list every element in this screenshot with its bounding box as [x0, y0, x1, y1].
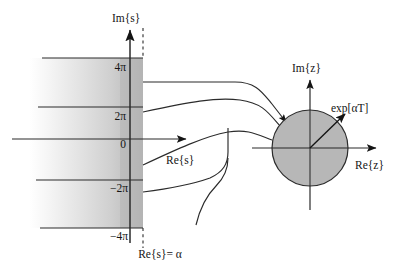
z-plane-real-axis-label: Re{z} [355, 159, 384, 171]
s-plane-imaginary-axis-label: Im{s} [112, 12, 140, 24]
s-plane-to-z-plane-diagram: Im{s} Re{s} Re{s}= α 4π 2π 0 −2π −4π [0, 0, 402, 269]
s-plane-tick-neg4pi: −4π [110, 230, 128, 242]
figure-root: Im{s} Re{s} Re{s}= α 4π 2π 0 −2π −4π [0, 0, 402, 269]
s-plane-tick-4pi: 4π [114, 61, 126, 73]
s-plane-tick-2pi: 2π [114, 110, 126, 122]
s-plane-boundary-label: Re{s}= α [138, 248, 182, 260]
s-plane-real-axis-label: Re{s} [166, 154, 194, 166]
z-plane-radius-label: exp[αT] [331, 102, 368, 115]
s-plane-tick-neg2pi: −2π [110, 182, 128, 194]
z-plane-imaginary-axis-label: Im{z} [292, 62, 321, 74]
s-plane-tick-0: 0 [120, 138, 126, 150]
